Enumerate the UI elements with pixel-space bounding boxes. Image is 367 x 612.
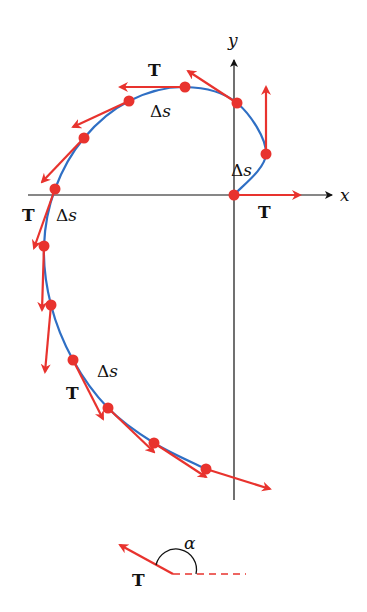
tangent-vector xyxy=(45,305,51,372)
sample-point xyxy=(39,241,50,252)
tangent-label: T xyxy=(258,202,271,222)
sample-point xyxy=(79,133,90,144)
tangent-vector xyxy=(108,408,154,452)
tangent-vector-diagram: x y TΔsΔsTTΔsΔsT α T xyxy=(0,0,367,612)
sample-point xyxy=(261,149,272,160)
tangent-vector xyxy=(42,246,44,310)
sample-points xyxy=(39,82,272,475)
tangent-label: T xyxy=(66,383,79,403)
sample-point xyxy=(180,82,191,93)
arc-length-label: Δs xyxy=(97,361,118,381)
arc-length-label: Δs xyxy=(231,160,252,180)
tangent-vector xyxy=(42,138,84,182)
tangent-vector xyxy=(206,469,270,489)
tangent-label: T xyxy=(22,205,35,225)
sample-point xyxy=(50,184,61,195)
sample-point xyxy=(103,403,114,414)
tangent-vector xyxy=(154,443,206,477)
sample-point xyxy=(201,464,212,475)
sample-point xyxy=(149,438,160,449)
sample-point xyxy=(232,98,243,109)
tangent-label: T xyxy=(148,60,161,80)
sample-point xyxy=(229,190,240,201)
arc-length-label: Δs xyxy=(150,101,171,121)
sample-point xyxy=(46,300,57,311)
sample-point xyxy=(124,96,135,107)
angle-tangent-label: T xyxy=(132,570,145,590)
angle-tangent-vector xyxy=(120,545,173,574)
axes: x y xyxy=(28,30,350,500)
angle-inset: α T xyxy=(120,533,246,590)
arc-length-label: Δs xyxy=(56,205,77,225)
x-axis-label: x xyxy=(340,185,350,205)
y-axis-label: y xyxy=(227,30,238,50)
diagram-canvas: x y TΔsΔsTTΔsΔsT α T xyxy=(0,0,367,612)
sample-point xyxy=(68,355,79,366)
angle-label: α xyxy=(184,533,196,553)
tangent-vector xyxy=(73,101,129,127)
